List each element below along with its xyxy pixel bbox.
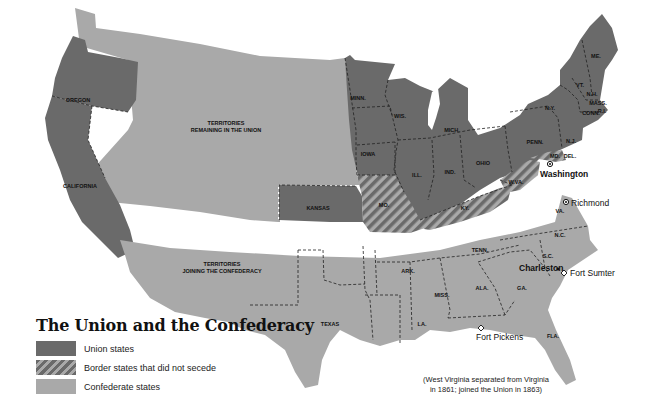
label-tennessee: TENN. bbox=[472, 247, 489, 253]
label-louisiana: LA. bbox=[418, 321, 427, 327]
label-new-york: N.Y. bbox=[545, 105, 556, 111]
label-wisconsin: WIS. bbox=[394, 113, 406, 119]
label-vermont: VT. bbox=[576, 82, 584, 88]
label-rhode-island: R.I. bbox=[598, 108, 607, 114]
label-massachusetts: MASS. bbox=[589, 100, 607, 106]
label-fort-sumter: Fort Sumter bbox=[570, 268, 615, 278]
label-fort-pickens: Fort Pickens bbox=[476, 332, 523, 342]
label-missouri: MO. bbox=[379, 202, 390, 208]
legend-label-border: Border states that did not secede bbox=[84, 363, 216, 373]
note-line-2: in 1861; joined the Union in 1863) bbox=[386, 385, 586, 395]
legend-item-border: Border states that did not secede bbox=[36, 358, 314, 377]
west-virginia-note: (West Virginia separated from Virginia i… bbox=[386, 375, 586, 395]
label-indiana: IND. bbox=[445, 169, 456, 175]
state-kansas bbox=[279, 185, 363, 222]
label-alabama: ALA. bbox=[476, 285, 489, 291]
label-pennsylvania: PENN. bbox=[527, 139, 544, 145]
label-new-hampshire: N.H. bbox=[587, 91, 598, 97]
label-territories-confederacy-2: JOINING THE CONFEDERACY bbox=[182, 268, 261, 274]
label-kansas: KANSAS bbox=[306, 205, 330, 211]
label-illinois: ILL. bbox=[412, 172, 422, 178]
label-ohio: OHIO bbox=[476, 160, 491, 166]
label-arkansas: ARK. bbox=[401, 268, 415, 274]
label-texas: TEXAS bbox=[321, 321, 340, 327]
label-charleston: Charleston bbox=[519, 263, 563, 273]
label-georgia: GA. bbox=[517, 285, 527, 291]
label-virginia: VA. bbox=[556, 208, 565, 214]
label-kentucky: KY. bbox=[461, 205, 470, 211]
label-territories-union-2: REMAINING IN THE UNION bbox=[191, 127, 261, 133]
label-oregon: OREGON bbox=[66, 97, 90, 103]
label-iowa: IOWA bbox=[361, 151, 376, 157]
legend-title: The Union and the Confederacy bbox=[36, 316, 314, 335]
label-north-carolina: N.C. bbox=[555, 232, 566, 238]
note-line-1: (West Virginia separated from Virginia bbox=[386, 375, 586, 385]
legend-item-confederate: Confederate states bbox=[36, 377, 314, 396]
legend-label-confederate: Confederate states bbox=[84, 382, 160, 392]
label-south-carolina: S.C. bbox=[543, 253, 554, 259]
label-maryland: MD. bbox=[550, 153, 561, 159]
label-mississippi: MISS. bbox=[435, 292, 450, 298]
label-maine: ME. bbox=[591, 53, 601, 59]
label-michigan: MICH. bbox=[444, 127, 460, 133]
label-minnesota: MINN. bbox=[350, 95, 366, 101]
label-new-jersey: N.J. bbox=[566, 138, 577, 144]
label-west-virginia: W.VA. bbox=[508, 179, 524, 185]
label-washington: Washington bbox=[540, 169, 588, 179]
legend-item-union: Union states bbox=[36, 339, 314, 358]
legend-label-union: Union states bbox=[84, 344, 134, 354]
label-florida: FLA. bbox=[547, 333, 560, 339]
label-territories-union: TERRITORIES bbox=[208, 120, 245, 126]
map-legend: The Union and the Confederacy Union stat… bbox=[36, 316, 314, 396]
label-richmond: Richmond bbox=[571, 198, 610, 208]
label-delaware: DEL. bbox=[564, 153, 577, 159]
union-swatch bbox=[36, 341, 76, 356]
confederate-swatch bbox=[36, 379, 76, 394]
border-swatch bbox=[36, 360, 76, 375]
label-territories-confederacy: TERRITORIES bbox=[204, 261, 241, 267]
label-california: CALIFORNIA bbox=[63, 183, 97, 189]
